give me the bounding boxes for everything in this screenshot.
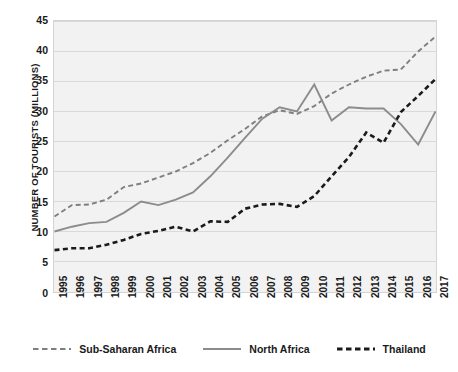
x-axis-tick-2010: 2010 — [319, 276, 329, 298]
legend-label: North Africa — [249, 343, 309, 355]
x-axis-tick-2002: 2002 — [180, 276, 190, 298]
x-axis-tick-1996: 1996 — [76, 276, 86, 298]
plot-lines — [54, 21, 436, 292]
tourist-arrivals-line-chart: NUMBER OF TOURISTS (MILLIONS) 0510152025… — [0, 0, 458, 372]
plot-area — [53, 20, 437, 293]
y-axis-tick-45: 45 — [22, 15, 48, 26]
chart-legend: Sub-Saharan AfricaNorth AfricaThailand — [0, 338, 458, 360]
y-axis-tick-25: 25 — [22, 136, 48, 147]
x-axis-tick-1997: 1997 — [94, 276, 104, 298]
legend-label: Sub-Saharan Africa — [79, 343, 176, 355]
x-axis-tick-2007: 2007 — [267, 276, 277, 298]
y-axis-tick-0: 0 — [22, 288, 48, 299]
y-axis-tick-labels: 051015202530354045 — [20, 0, 48, 372]
x-axis-tick-labels: 1995199619971998199920002001200220032004… — [53, 296, 437, 340]
y-axis-tick-20: 20 — [22, 166, 48, 177]
y-axis-tick-15: 15 — [22, 197, 48, 208]
x-axis-tick-2014: 2014 — [388, 276, 398, 298]
x-axis-tick-2009: 2009 — [301, 276, 311, 298]
x-axis-tick-2015: 2015 — [405, 276, 415, 298]
x-axis-tick-2013: 2013 — [371, 276, 381, 298]
x-axis-tick-2016: 2016 — [423, 276, 433, 298]
x-axis-tick-2003: 2003 — [198, 276, 208, 298]
x-axis-tick-2001: 2001 — [163, 276, 173, 298]
x-axis-tick-2008: 2008 — [284, 276, 294, 298]
x-axis-tick-1995: 1995 — [59, 276, 69, 298]
x-axis-tick-2004: 2004 — [215, 276, 225, 298]
legend-swatch-icon — [336, 344, 376, 354]
x-axis-tick-1999: 1999 — [128, 276, 138, 298]
legend-item-sub-saharan-africa[interactable]: Sub-Saharan Africa — [32, 343, 176, 355]
y-axis-tick-10: 10 — [22, 227, 48, 238]
x-axis-tick-1998: 1998 — [111, 276, 121, 298]
x-axis-tick-2011: 2011 — [336, 276, 346, 298]
y-axis-tick-40: 40 — [22, 45, 48, 56]
series-line-north-africa — [55, 85, 436, 232]
series-line-sub-saharan-africa — [55, 37, 436, 217]
y-axis-tick-35: 35 — [22, 75, 48, 86]
x-axis-tick-2012: 2012 — [353, 276, 363, 298]
legend-swatch-icon — [202, 344, 242, 354]
legend-item-north-africa[interactable]: North Africa — [202, 343, 309, 355]
y-axis-tick-30: 30 — [22, 106, 48, 117]
series-line-thailand — [55, 79, 436, 250]
x-axis-tick-2000: 2000 — [146, 276, 156, 298]
y-axis-tick-5: 5 — [22, 257, 48, 268]
x-axis-tick-2006: 2006 — [250, 276, 260, 298]
legend-swatch-icon — [32, 344, 72, 354]
legend-label: Thailand — [383, 343, 426, 355]
x-axis-tick-2005: 2005 — [232, 276, 242, 298]
legend-item-thailand[interactable]: Thailand — [336, 343, 426, 355]
x-axis-tick-2017: 2017 — [440, 276, 450, 298]
